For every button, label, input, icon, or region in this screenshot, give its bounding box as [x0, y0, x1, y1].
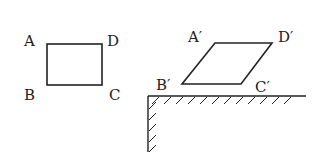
label-c-prime: C′ [255, 78, 270, 96]
label-c: C [109, 86, 120, 104]
ground-hatching [152, 97, 291, 104]
label-b: B [24, 86, 35, 104]
wall-hatching [149, 102, 156, 152]
label-b-prime: B′ [156, 76, 171, 94]
rectangle-abcd [47, 44, 102, 85]
label-a-prime: A′ [187, 28, 203, 46]
label-d: D [107, 32, 119, 50]
diagram-canvas: A D B C A′ D′ B′ C′ [0, 0, 316, 154]
label-d-prime: D′ [278, 28, 294, 46]
label-a: A [23, 32, 35, 50]
